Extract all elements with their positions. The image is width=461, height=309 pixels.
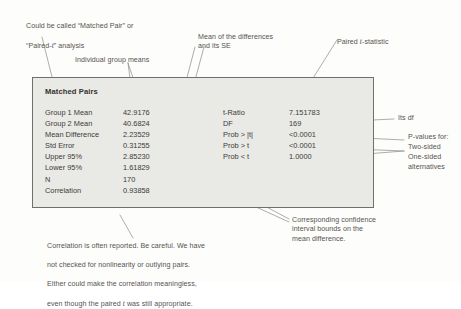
correlation-note-line1: Correlation is often reported. Be carefu… bbox=[47, 242, 205, 250]
stat-value: 42.9176 bbox=[123, 107, 193, 118]
annotation-alternatives: alternatives bbox=[408, 163, 461, 172]
annotation-correlation-note: Correlation is often reported. Be carefu… bbox=[47, 233, 277, 309]
annotation-confidence-interval: Corresponding confidence interval bounds… bbox=[292, 216, 417, 244]
stat-label: Upper 95% bbox=[45, 151, 123, 162]
right-statistics-table: t-Ratio 7.151783 DF 169 Prob > |t| <0.00… bbox=[223, 107, 369, 162]
left-statistics-table: Group 1 Mean 42.9176 Group 2 Mean 40.682… bbox=[45, 107, 193, 196]
stat-value: 7.151783 bbox=[289, 107, 369, 118]
annotation-p-values-heading: P-values for: bbox=[408, 133, 461, 142]
table-row: t-Ratio 7.151783 bbox=[223, 107, 369, 118]
table-row: Group 2 Mean 40.6824 bbox=[45, 118, 193, 129]
table-row: Prob < t 1.0000 bbox=[223, 151, 369, 162]
stat-value: 40.6824 bbox=[123, 118, 193, 129]
annotation-matched-pair-line2a: “Paired- bbox=[26, 42, 52, 50]
stat-value: 1.61829 bbox=[123, 162, 193, 173]
matched-pairs-output-box: Matched Pairs Group 1 Mean 42.9176 Group… bbox=[32, 77, 374, 208]
correlation-note-line2: not checked for nonlinearity or outlying… bbox=[47, 261, 190, 269]
stat-value: <0.0001 bbox=[289, 129, 369, 140]
table-row: Prob > |t| <0.0001 bbox=[223, 129, 369, 140]
stat-value: 170 bbox=[123, 174, 193, 185]
stat-label: Correlation bbox=[45, 185, 123, 196]
stat-label: Prob > t bbox=[223, 140, 289, 151]
annotation-paired-t-statistic: Paired t-statistic bbox=[337, 28, 457, 48]
table-row: Lower 95% 1.61829 bbox=[45, 162, 193, 173]
annotation-mean-of-differences: Mean of the differences and its SE bbox=[198, 33, 318, 52]
stat-label: Prob > |t| bbox=[223, 129, 289, 140]
stat-label: Std Error bbox=[45, 140, 123, 151]
stat-value: 1.0000 bbox=[289, 151, 369, 162]
annotation-its-df: Its df bbox=[398, 114, 414, 123]
annotation-paired-t-suffix: -statistic bbox=[362, 38, 389, 46]
table-row: Std Error 0.31255 bbox=[45, 140, 193, 151]
correlation-note-line3: Either could make the correlation meanin… bbox=[47, 280, 197, 288]
table-row: Correlation 0.93858 bbox=[45, 185, 193, 196]
annotation-two-sided: Two-sided bbox=[408, 143, 461, 152]
stat-label: Prob < t bbox=[223, 151, 289, 162]
stat-label: Mean Difference bbox=[45, 129, 123, 140]
stat-label: Group 1 Mean bbox=[45, 107, 123, 118]
correlation-note-line4a: even though the paired bbox=[47, 300, 123, 308]
stat-label: t-Ratio bbox=[223, 107, 289, 118]
stat-label: Lower 95% bbox=[45, 162, 123, 173]
stat-label: Group 2 Mean bbox=[45, 118, 123, 129]
stat-value: 169 bbox=[289, 118, 369, 129]
annotation-paired-t-prefix: Paired bbox=[337, 38, 360, 46]
stat-label: DF bbox=[223, 118, 289, 129]
correlation-note-line4b: was still appropriate. bbox=[125, 300, 193, 308]
stat-value: 0.31255 bbox=[123, 140, 193, 151]
output-box-title: Matched Pairs bbox=[45, 87, 98, 96]
table-row: Prob > t <0.0001 bbox=[223, 140, 369, 151]
table-row: Upper 95% 2.85230 bbox=[45, 151, 193, 162]
stat-value: 0.93858 bbox=[123, 185, 193, 196]
stat-label: N bbox=[45, 174, 123, 185]
table-row: Mean Difference 2.23529 bbox=[45, 129, 193, 140]
annotation-individual-group-means: Individual group means bbox=[75, 56, 205, 65]
stat-value: <0.0001 bbox=[289, 140, 369, 151]
stat-value: 2.23529 bbox=[123, 129, 193, 140]
stat-value: 2.85230 bbox=[123, 151, 193, 162]
table-row: DF 169 bbox=[223, 118, 369, 129]
annotation-matched-pair: Could be called “Matched Pair” or “Paire… bbox=[26, 13, 201, 52]
table-row: N 170 bbox=[45, 174, 193, 185]
table-row: Group 1 Mean 42.9176 bbox=[45, 107, 193, 118]
annotation-one-sided: One-sided bbox=[408, 153, 461, 162]
annotation-matched-pair-line1: Could be called “Matched Pair” or bbox=[26, 22, 133, 30]
annotation-matched-pair-line2b: ” analysis bbox=[54, 42, 84, 50]
